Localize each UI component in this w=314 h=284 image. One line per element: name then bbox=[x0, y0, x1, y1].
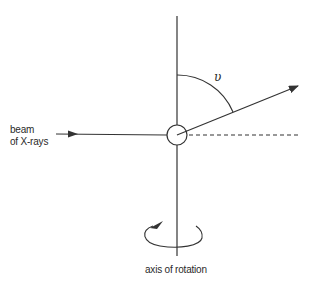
angle-arc bbox=[177, 75, 233, 112]
rotation-arrowhead-icon bbox=[150, 221, 163, 229]
beam-label-line1: beam bbox=[10, 124, 34, 136]
angle-label: υ bbox=[214, 70, 221, 84]
beam-label-line2: of X-rays bbox=[10, 136, 48, 148]
axis-of-rotation-label: axis of rotation bbox=[145, 264, 207, 276]
rotation-arrow-icon bbox=[145, 226, 203, 247]
diffracted-ray bbox=[177, 86, 298, 135]
incident-beam-arrow-icon bbox=[68, 131, 78, 138]
